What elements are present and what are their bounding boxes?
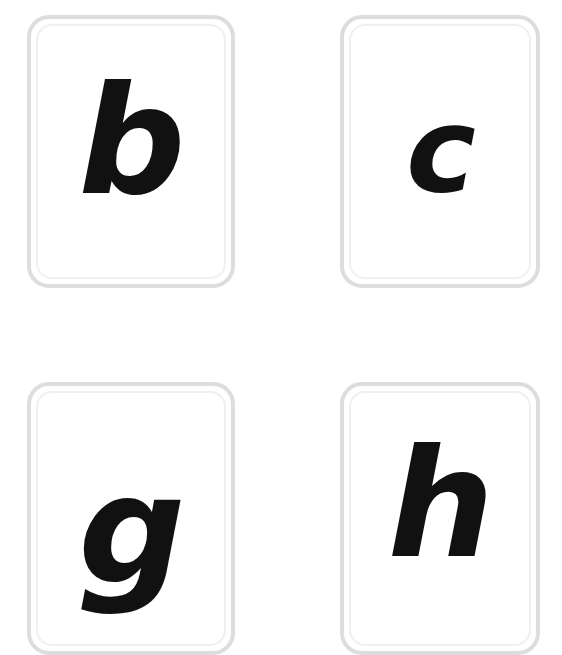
flashcard-letter-c: c: [351, 91, 529, 209]
flashcard-h-face: h: [349, 391, 531, 646]
flashcard-g-face: g: [36, 391, 226, 646]
flashcard-c[interactable]: c: [340, 15, 540, 288]
flashcard-g[interactable]: g: [27, 382, 235, 655]
flashcard-c-face: c: [349, 24, 531, 279]
flashcard-letter-h: h: [351, 429, 529, 579]
flashcard-b-face: b: [36, 24, 226, 279]
flashcard-letter-b: b: [38, 66, 224, 216]
flashcard-h[interactable]: h: [340, 382, 540, 655]
flashcard-letter-g: g: [38, 455, 224, 605]
flashcard-b[interactable]: b: [27, 15, 235, 288]
